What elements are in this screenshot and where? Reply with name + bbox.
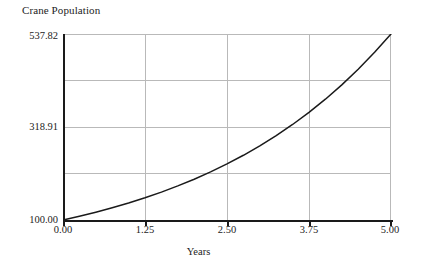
y-tick-label-537: 537.82 (29, 31, 58, 42)
x-tick-label-375: 3.75 (300, 225, 318, 236)
plot-area (63, 34, 391, 220)
plot-svg (63, 34, 403, 234)
x-axis-title-wrap: Years (0, 246, 423, 257)
x-tick-label-500: 5.00 (381, 225, 399, 236)
x-tick-label-125: 1.25 (136, 225, 154, 236)
x-axis-title: Years (187, 246, 210, 257)
y-tick-label-318: 318.91 (29, 122, 58, 133)
x-tick-label-000: 0.00 (54, 225, 72, 236)
chart-screenshot: Crane Population 537.82 318.91 100.00 (0, 0, 423, 267)
x-tick-label-250: 2.50 (218, 225, 236, 236)
y-axis-tick-labels: 537.82 318.91 100.00 (0, 0, 58, 267)
